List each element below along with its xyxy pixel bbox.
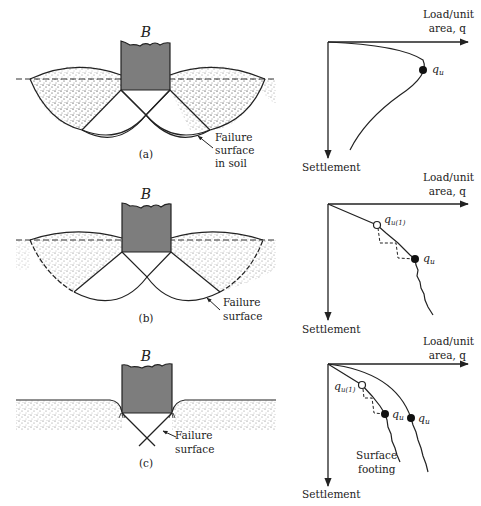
y-axis-label: Settlement (302, 488, 361, 500)
curve-label-line2: footing (358, 463, 396, 475)
x-axis-label-line2: area, q (429, 349, 466, 361)
footing (122, 203, 171, 252)
active-wedge (121, 90, 170, 115)
y-axis-label: Settlement (302, 161, 361, 173)
failure-label-line2: surface (215, 144, 254, 156)
failure-label-line2: surface (175, 443, 214, 455)
surface-footing-curve (328, 364, 400, 462)
first-failure-load-point (374, 222, 381, 229)
failure-line-left (122, 413, 155, 446)
failure-label-line3: in soil (215, 157, 248, 169)
y-axis-label: Settlement (302, 323, 361, 335)
stepped-failure-lines (363, 389, 385, 414)
ultimate-load-point-inner (381, 410, 389, 418)
panel-b-soil-diagram: B Failure surface (b) (16, 186, 276, 324)
soil-stipple (16, 232, 122, 292)
footing-width-label: B (140, 348, 151, 364)
failure-label-arrow (207, 298, 220, 310)
failure-label-arrow (198, 136, 213, 148)
qu-outer-label: qu (418, 412, 430, 426)
panel-b-load-settlement-graph: qu(1) qu Load/unit area, q Settlement (302, 171, 475, 335)
failure-label-line1: Failure (175, 429, 213, 441)
x-axis-label-line1: Load/unit (423, 335, 475, 347)
footing (121, 41, 170, 90)
caption-b: (b) (139, 312, 154, 324)
caption-c: (c) (139, 457, 153, 469)
x-axis-label-line2: area, q (429, 185, 466, 197)
soil-stipple (16, 400, 122, 430)
ultimate-load-point (419, 66, 427, 74)
qu-inner-label: qu (392, 408, 404, 422)
panel-a-soil-diagram: B Failure surface in soil (a) (16, 24, 276, 169)
failure-label-line1: Failure (215, 131, 253, 143)
x-axis-label-line1: Load/unit (423, 8, 475, 20)
panel-c-soil-diagram: B Failure surface (c) (16, 348, 276, 469)
footing (122, 364, 172, 413)
failure-line-right (139, 413, 172, 446)
panel-c-load-settlement-graph: qu(1) qu qu Surface footing Load/unit ar… (302, 335, 475, 500)
x-axis-label-line2: area, q (429, 22, 466, 34)
x-axis-label-line1: Load/unit (423, 171, 475, 183)
qu1-label: qu(1) (334, 380, 356, 394)
qu-label: qu (432, 63, 444, 77)
caption-a: (a) (139, 148, 153, 160)
active-wedge (122, 252, 171, 277)
qu1-label: qu(1) (384, 213, 406, 227)
load-settlement-curve (328, 42, 424, 150)
first-failure-load-point (359, 382, 366, 389)
bearing-capacity-failure-figure: B Failure surface in soil (a) qu Load/un… (0, 0, 481, 506)
panel-a-load-settlement-graph: qu Load/unit area, q Settlement (302, 8, 475, 173)
failure-label-line2: surface (223, 310, 262, 322)
ultimate-load-point (411, 255, 419, 263)
failure-label-line1: Failure (223, 296, 261, 308)
qu-label: qu (423, 252, 435, 266)
ultimate-load-point-outer (407, 414, 415, 422)
footing-width-label: B (140, 186, 151, 202)
footing-width-label: B (140, 24, 151, 40)
curve-label-line1: Surface (356, 449, 397, 461)
